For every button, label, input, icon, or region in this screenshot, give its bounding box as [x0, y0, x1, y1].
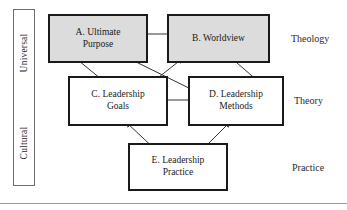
axis-label-cultural: Cultural: [19, 100, 29, 186]
node-d-leadership-methods[interactable]: D. Leadership Methods: [188, 76, 284, 126]
bottom-divider: [0, 203, 347, 204]
node-a-label: A. Ultimate Purpose: [73, 27, 124, 51]
axis-rail: Universal Cultural: [13, 9, 35, 186]
node-e-label: E. Leadership Practice: [149, 155, 208, 179]
tier-label-practice: Practice: [292, 162, 324, 173]
axis-label-universal: Universal: [19, 10, 29, 96]
node-e-leadership-practice[interactable]: E. Leadership Practice: [128, 143, 228, 191]
node-b-worldview[interactable]: B. Worldview: [167, 14, 270, 63]
tier-label-theory: Theory: [294, 95, 323, 106]
tier-label-theology: Theology: [291, 33, 329, 44]
node-b-label: B. Worldview: [189, 33, 248, 45]
node-c-leadership-goals[interactable]: C. Leadership Goals: [68, 76, 168, 126]
node-a-ultimate-purpose[interactable]: A. Ultimate Purpose: [48, 14, 148, 63]
node-d-label: D. Leadership Methods: [206, 89, 266, 113]
node-c-label: C. Leadership Goals: [88, 89, 147, 113]
diagram-figure: Universal Cultural A. Ultimate Purpose B: [0, 0, 347, 210]
